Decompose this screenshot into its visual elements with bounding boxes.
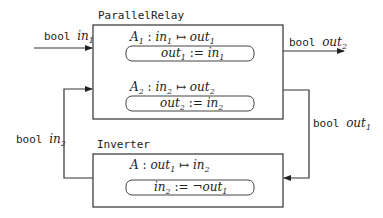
wire-out2: bool out2 [283,35,347,51]
wire-out2-label: bool out2 [289,35,347,51]
parallel-relay-component: ParallelRelay A1 : in1 ↦ out1 out1 := in… [93,9,283,119]
component-diagram: ParallelRelay A1 : in1 ↦ out1 out1 := in… [0,0,383,218]
arrow-in2 [64,89,93,178]
wire-in1-label: bool in1 [44,29,94,45]
action-a-assignment: in2 := ¬out1 [154,180,227,196]
arrow-out1 [283,90,309,178]
wire-out1-label: bool out1 [313,116,371,132]
wire-in1: bool in1 [34,29,94,48]
wire-in2: bool in2 [16,89,93,178]
wire-out1: bool out1 [283,90,371,178]
wire-in2-label: bool in2 [16,132,66,148]
action-a-signature: A : out1 ↦ in2 [129,158,210,174]
parallel-relay-title: ParallelRelay [98,9,184,22]
action-a1-assignment: out1 := in1 [161,46,224,62]
inverter-component: Inverter A : out1 ↦ in2 in2 := ¬out1 [93,138,283,207]
action-a2-assignment: out2 := in2 [160,96,223,112]
inverter-title: Inverter [97,138,150,151]
